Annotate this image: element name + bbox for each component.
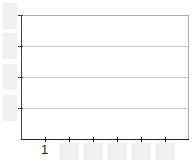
x-label-placeholder (156, 143, 175, 160)
plot-frame-right (188, 15, 189, 140)
x-axis (21, 139, 189, 140)
x-tick (69, 137, 70, 142)
y-tick (18, 108, 23, 109)
x-label-placeholder (84, 143, 103, 160)
x-tick (141, 137, 142, 142)
gridline (21, 77, 188, 78)
y-label-placeholder (3, 3, 17, 29)
y-tick (18, 15, 23, 16)
x-label-placeholder (60, 143, 79, 160)
y-tick (18, 77, 23, 78)
x-tick (117, 137, 118, 142)
x-tick (165, 137, 166, 142)
x-label-placeholder (108, 143, 127, 160)
y-label-placeholder (3, 95, 17, 121)
gridline (21, 46, 188, 47)
chart: 1 (0, 0, 196, 165)
x-label-placeholder (132, 143, 151, 160)
y-label-placeholder (3, 64, 17, 90)
x-tick-label: 1 (41, 142, 48, 157)
y-tick (18, 46, 23, 47)
y-label-placeholder (3, 33, 17, 59)
plot-frame-top (21, 15, 188, 16)
x-tick (93, 137, 94, 142)
gridline (21, 108, 188, 109)
